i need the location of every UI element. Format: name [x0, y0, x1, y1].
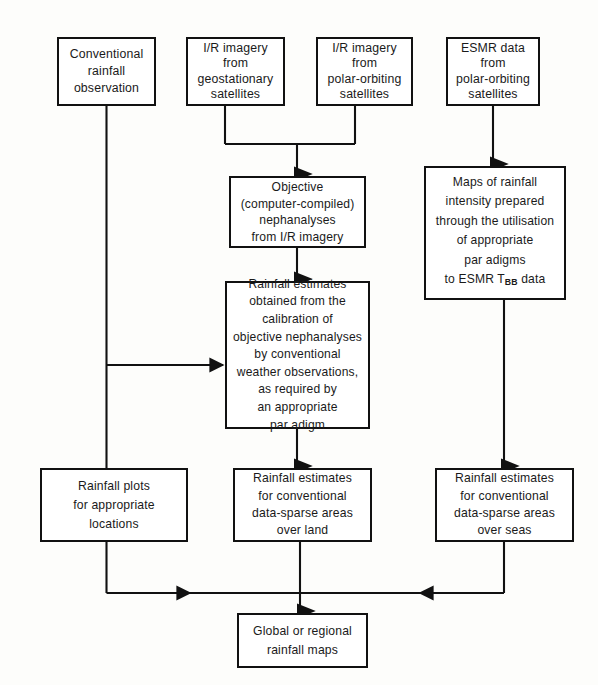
node-label: Rainfall estimates obtained from the cal… [227, 276, 368, 434]
esmr-tbb-suffix: data [518, 272, 546, 286]
node-label: I/R imagery from polar-orbiting satellit… [318, 41, 411, 103]
node-label: Objective (computer-compiled) nephanalys… [231, 179, 364, 245]
maps-line-3: through the utilisation [436, 214, 554, 228]
node-label: ESMR data from polar-orbiting satellites [448, 41, 538, 103]
node-objective-nephanalyses[interactable]: Objective (computer-compiled) nephanalys… [229, 176, 366, 248]
node-label: Maps of rainfallintensity preparedthroug… [426, 173, 564, 293]
maps-line-4: of appropriate [457, 233, 534, 247]
maps-line-1: Maps of rainfall [453, 175, 537, 189]
flowchart-canvas: Conventional rainfall observation I/R im… [0, 0, 598, 685]
node-rainfall-plots-locations[interactable]: Rainfall plots for appropriate locations [40, 468, 188, 542]
node-rainfall-estimates-calibration[interactable]: Rainfall estimates obtained from the cal… [225, 281, 370, 429]
esmr-tbb-prefix: to ESMR T [445, 272, 505, 286]
node-global-or-regional-rainfall-maps[interactable]: Global or regional rainfall maps [237, 613, 368, 668]
node-label: I/R imagery from geostationary satellite… [188, 41, 283, 103]
node-maps-of-rainfall-intensity[interactable]: Maps of rainfallintensity preparedthroug… [424, 166, 566, 300]
node-ir-imagery-polar-orbiting[interactable]: I/R imagery from polar-orbiting satellit… [316, 37, 413, 106]
node-label: Rainfall estimates for conventional data… [437, 470, 572, 540]
node-label: Conventional rainfall observation [59, 46, 154, 97]
maps-line-2: intensity prepared [446, 194, 545, 208]
node-label: Rainfall estimates for conventional data… [235, 470, 370, 540]
node-label: Global or regional rainfall maps [239, 622, 366, 660]
node-rainfall-estimates-over-seas[interactable]: Rainfall estimates for conventional data… [435, 468, 574, 542]
node-conventional-rainfall-observation[interactable]: Conventional rainfall observation [57, 37, 156, 106]
maps-line-5: par adigms [464, 253, 525, 267]
node-rainfall-estimates-over-land[interactable]: Rainfall estimates for conventional data… [233, 468, 372, 542]
node-label: Rainfall plots for appropriate locations [42, 477, 186, 534]
maps-line-6: to ESMR TBB data [445, 272, 546, 286]
node-ir-imagery-geostationary[interactable]: I/R imagery from geostationary satellite… [186, 37, 285, 106]
node-esmr-data-polar-orbiting[interactable]: ESMR data from polar-orbiting satellites [446, 37, 540, 106]
tbb-subscript: BB [505, 278, 518, 288]
